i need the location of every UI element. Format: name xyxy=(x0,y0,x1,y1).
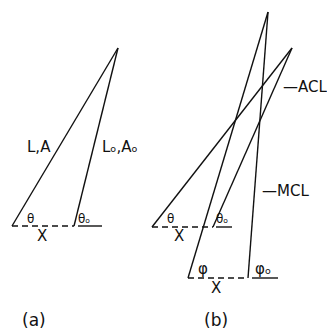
angle-theta-b: θ xyxy=(167,213,174,225)
label-acl: —ACL xyxy=(283,80,327,95)
label-mcl: —MCL xyxy=(262,184,309,199)
displacement-label-b-upper: X xyxy=(174,229,184,244)
angle-phi: φ xyxy=(198,262,208,277)
label-current-length-area: L,A xyxy=(27,140,50,155)
angle-theta-a: θ xyxy=(27,213,34,225)
caption-a: (a) xyxy=(22,312,46,329)
acl-original-line xyxy=(213,48,292,227)
mcl-current-line xyxy=(188,12,268,278)
caption-b: (b) xyxy=(204,312,228,329)
displacement-label-a: X xyxy=(37,229,47,244)
angle-theta0-a: θₒ xyxy=(78,213,90,225)
angle-theta0-b: θₒ xyxy=(216,213,228,225)
line-original-ligament-a xyxy=(74,48,118,226)
acl-current-line xyxy=(152,48,292,227)
label-original-length-area: Lₒ,Aₒ xyxy=(102,140,138,155)
line-current-ligament-a xyxy=(12,48,118,226)
displacement-label-b-lower: X xyxy=(211,281,221,296)
mcl-original-line xyxy=(248,12,268,278)
angle-phi0: φₒ xyxy=(255,262,271,277)
